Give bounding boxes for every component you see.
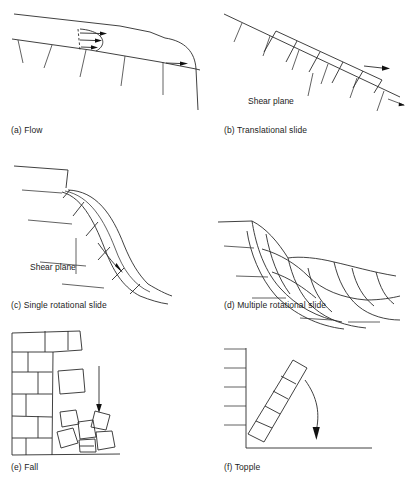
- panel-caption-a: (a) Flow: [11, 125, 43, 135]
- topple-arrow: [305, 380, 320, 440]
- panel-caption-f: (f) Topple: [224, 462, 260, 472]
- panel-caption-c: (c) Single rotational slide: [11, 300, 107, 310]
- shear-plane-label-b: Shear plane: [248, 96, 294, 106]
- panel-e-fall: [12, 331, 120, 455]
- panel-c-single-rotational-slide: [14, 166, 172, 304]
- velocity-arrow-2: [80, 38, 102, 42]
- slope-failure-figure: Shear plane Shear plane (a) Flow (b) Tra…: [0, 0, 409, 487]
- panel-caption-e: (e) Fall: [11, 462, 38, 472]
- panel-caption-d: (d) Multiple rotational slide: [224, 300, 326, 310]
- panel-a-flow: [12, 14, 200, 110]
- panel-caption-b: (b) Translational slide: [224, 125, 307, 135]
- panel-d-multiple-rotational-slide: [218, 221, 400, 329]
- panel-f-topple: [224, 348, 372, 448]
- displacement-arrow: [364, 66, 390, 71]
- fall-arrow: [96, 366, 102, 413]
- shear-plane-label-c: Shear plane: [30, 262, 76, 272]
- figure-canvas: [0, 0, 409, 487]
